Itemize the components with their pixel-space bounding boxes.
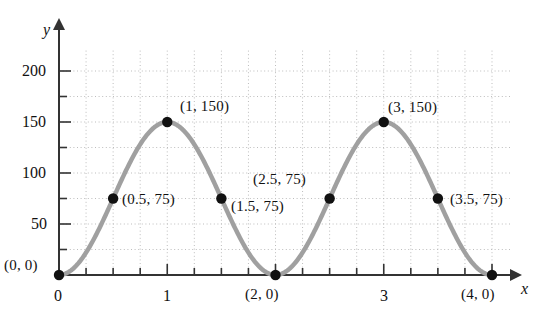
point-label-0-0: (0, 0) <box>4 258 38 273</box>
point-label-4-0: (4, 0) <box>461 287 495 302</box>
axis-lines <box>59 28 512 275</box>
y-tick-label-100: 100 <box>22 165 46 181</box>
y-axis-label: y <box>43 22 50 38</box>
point-label-3-150: (3, 150) <box>388 100 437 115</box>
data-point <box>216 193 226 203</box>
data-point <box>433 193 443 203</box>
data-point <box>379 117 389 127</box>
data-point <box>54 270 64 280</box>
point-label-15-75: (1.5, 75) <box>231 199 284 214</box>
x-tick-label-0: 0 <box>54 288 62 304</box>
sinusoid-graph-figure: 200 150 100 50 0 1 3 y x (0, 0) (0.5, 75… <box>0 0 544 323</box>
point-label-1-150: (1, 150) <box>180 99 229 114</box>
y-tick-label-50: 50 <box>31 216 47 232</box>
y-axis-ticks <box>59 71 71 250</box>
point-label-05-75: (0.5, 75) <box>122 192 175 207</box>
y-tick-label-150: 150 <box>22 114 46 130</box>
plot-canvas <box>0 0 544 323</box>
point-label-2-0: (2, 0) <box>245 287 279 302</box>
x-tick-label-1: 1 <box>163 288 171 304</box>
x-axis-label: x <box>521 281 528 297</box>
grid-lines-horizontal <box>59 71 510 250</box>
data-point <box>108 193 118 203</box>
grid-lines-vertical <box>86 51 492 275</box>
point-label-35-75: (3.5, 75) <box>450 192 503 207</box>
point-label-25-75: (2.5, 75) <box>253 172 306 187</box>
x-tick-label-3: 3 <box>380 288 388 304</box>
data-point <box>270 270 280 280</box>
data-point <box>162 117 172 127</box>
data-point <box>324 193 334 203</box>
y-tick-label-200: 200 <box>22 63 46 79</box>
data-point <box>487 270 497 280</box>
